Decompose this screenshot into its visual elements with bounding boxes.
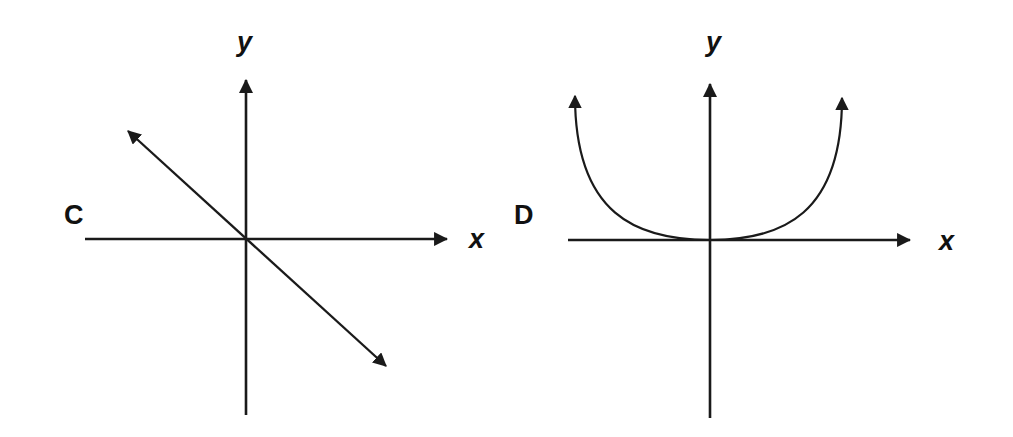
graph-panel-c: C y x — [0, 0, 506, 437]
panel-d-parabola-curve — [575, 96, 842, 240]
panel-c-x-axis-label: x — [469, 226, 484, 253]
panel-d-plot — [506, 0, 1013, 437]
panel-c-letter: C — [64, 202, 84, 229]
panel-d-x-axis-label: x — [939, 228, 954, 255]
graph-panel-d: D y x — [506, 0, 1013, 437]
panel-c-line-curve — [128, 131, 386, 366]
panel-d-letter: D — [514, 202, 534, 229]
figure-root: C y x D y x — [0, 0, 1013, 437]
panel-c-y-axis-label: y — [237, 29, 252, 56]
panel-d-y-axis-label: y — [706, 29, 721, 56]
